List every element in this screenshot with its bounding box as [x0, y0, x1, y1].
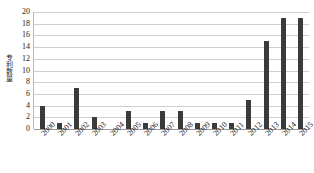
bar-slot — [292, 12, 309, 129]
y-axis-tick: 12 — [22, 55, 30, 63]
x-axis-tick-slot: 2015 — [292, 129, 309, 173]
bar-slot — [189, 12, 206, 129]
x-axis-tick-slot: 2010 — [206, 129, 223, 173]
bar-slot — [275, 12, 292, 129]
x-axis-tick-slot: 2014 — [275, 129, 292, 173]
bar-slot — [51, 12, 68, 129]
bar-chart: 专利数量 02468101214161820 20002001200220032… — [0, 0, 314, 173]
y-axis-tick: 10 — [22, 67, 30, 75]
x-axis-tick-slot: 2012 — [240, 129, 257, 173]
bar-slot — [206, 12, 223, 129]
bar-slot — [103, 12, 120, 129]
x-axis-tick-slot: 2008 — [171, 129, 188, 173]
bars-container — [34, 12, 309, 129]
bar-slot — [137, 12, 154, 129]
x-axis-tick-slot: 2004 — [102, 129, 119, 173]
bar-slot — [154, 12, 171, 129]
y-axis-tick: 14 — [22, 43, 30, 51]
x-axis-tick-slot: 2000 — [33, 129, 50, 173]
x-axis-tick-slot: 2002 — [68, 129, 85, 173]
bar-slot — [120, 12, 137, 129]
y-axis-tick: 6 — [26, 90, 30, 98]
bar-slot — [68, 12, 85, 129]
y-axis-tick-labels: 02468101214161820 — [14, 12, 32, 129]
x-axis-tick-slot: 2009 — [188, 129, 205, 173]
bar[interactable] — [74, 88, 79, 129]
x-axis-tick-slot: 2007 — [154, 129, 171, 173]
bar-slot — [34, 12, 51, 129]
y-axis-title-label: 专利数量 — [4, 54, 11, 82]
x-axis-tick-slot: 2003 — [85, 129, 102, 173]
bar[interactable] — [298, 18, 303, 129]
x-axis-tick-slot: 2001 — [50, 129, 67, 173]
x-axis-tick-slot: 2011 — [223, 129, 240, 173]
plot-area — [33, 12, 309, 129]
y-axis-tick: 0 — [26, 125, 30, 133]
bar-slot — [223, 12, 240, 129]
x-axis-tick-slot: 2005 — [119, 129, 136, 173]
bar[interactable] — [281, 18, 286, 129]
x-axis-tick-labels: 2000200120022003200420052006200720082009… — [33, 129, 309, 173]
y-axis-tick: 8 — [26, 78, 30, 86]
y-axis-tick: 16 — [22, 31, 30, 39]
bar-slot — [172, 12, 189, 129]
x-axis-tick-slot: 2013 — [257, 129, 274, 173]
y-axis-title: 专利数量 — [1, 0, 15, 135]
y-axis-tick: 2 — [26, 113, 30, 121]
y-axis-tick: 4 — [26, 102, 30, 110]
x-axis-tick-slot: 2006 — [137, 129, 154, 173]
bar-slot — [86, 12, 103, 129]
bar[interactable] — [246, 100, 251, 129]
y-axis-tick: 18 — [22, 20, 30, 28]
bar[interactable] — [264, 41, 269, 129]
y-axis-tick: 20 — [22, 8, 30, 16]
bar-slot — [257, 12, 274, 129]
bar-slot — [240, 12, 257, 129]
